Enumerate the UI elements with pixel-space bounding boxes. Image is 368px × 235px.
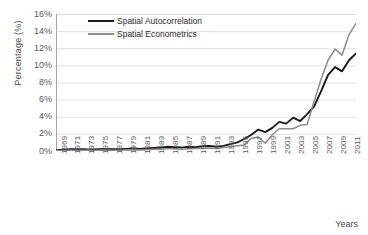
x-axis-tick: 2007 bbox=[325, 136, 334, 154]
x-axis-tick: 1997 bbox=[255, 136, 264, 154]
y-axis-tick: 6% bbox=[26, 95, 52, 104]
y-axis-tick: 0% bbox=[26, 147, 52, 156]
y-axis-tick: 4% bbox=[26, 112, 52, 121]
y-axis-tick: 12% bbox=[26, 44, 52, 53]
y-axis-tick: 8% bbox=[26, 78, 52, 87]
legend-label: Spatial Econometrics bbox=[117, 29, 197, 39]
x-axis-tick: 1981 bbox=[143, 136, 152, 154]
legend-label: Spatial Autocorrelation bbox=[117, 16, 202, 26]
legend-item: Spatial Autocorrelation bbox=[88, 14, 202, 27]
y-axis-tick: 14% bbox=[26, 27, 52, 36]
legend-item: Spatial Econometrics bbox=[88, 27, 202, 40]
y-axis-tick-labels: 16%14%12%10%8%6%4%2%0% bbox=[22, 0, 52, 235]
legend-line-swatch bbox=[88, 20, 114, 22]
x-axis-tick: 1969 bbox=[60, 136, 69, 154]
x-axis-tick: 1971 bbox=[73, 136, 82, 154]
x-axis-title: Years bbox=[335, 219, 358, 229]
x-axis-tick: 1975 bbox=[101, 136, 110, 154]
x-axis-tick: 1987 bbox=[185, 136, 194, 154]
legend-line-swatch bbox=[88, 33, 114, 35]
x-axis-tick-labels: 1969197119731975197719791981198319851987… bbox=[56, 154, 356, 204]
x-axis-tick: 1989 bbox=[199, 136, 208, 154]
series-line-spatial-econometrics bbox=[56, 23, 356, 150]
x-axis-tick: 2003 bbox=[297, 136, 306, 154]
x-axis-tick: 1985 bbox=[171, 136, 180, 154]
x-axis-tick: 1983 bbox=[157, 136, 166, 154]
x-axis-tick: 2011 bbox=[353, 136, 362, 154]
y-axis-tick: 16% bbox=[26, 10, 52, 19]
x-axis-tick: 2005 bbox=[311, 136, 320, 154]
x-axis-tick: 1979 bbox=[129, 136, 138, 154]
y-axis-tick: 10% bbox=[26, 61, 52, 70]
x-axis-tick: 2001 bbox=[283, 136, 292, 154]
x-axis-tick: 1999 bbox=[269, 136, 278, 154]
x-axis-tick: 1973 bbox=[87, 136, 96, 154]
chart-legend: Spatial AutocorrelationSpatial Econometr… bbox=[88, 14, 202, 40]
x-axis-tick: 1993 bbox=[227, 136, 236, 154]
x-axis-tick: 1977 bbox=[115, 136, 124, 154]
line-chart: Percentage (%) 16%14%12%10%8%6%4%2%0% 19… bbox=[0, 0, 368, 235]
x-axis-tick: 1991 bbox=[213, 136, 222, 154]
x-axis-tick: 1995 bbox=[241, 136, 250, 154]
x-axis-tick: 2009 bbox=[339, 136, 348, 154]
y-axis-tick: 2% bbox=[26, 129, 52, 138]
